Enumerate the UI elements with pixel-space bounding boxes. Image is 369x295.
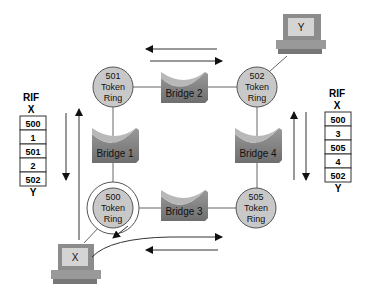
bridge-label: Bridge 3 — [165, 206, 203, 217]
rif-destination: Y — [30, 187, 37, 198]
rif-cell: 500 — [25, 119, 40, 129]
ring-number: 502 — [249, 71, 264, 81]
rif-title: RIF — [23, 92, 39, 103]
ring-number: 500 — [105, 192, 120, 202]
rif-table-left: RIF X 500 1 501 2 502 Y — [20, 92, 46, 198]
rif-cell: 1 — [30, 133, 35, 143]
host-y-computer-icon[interactable]: Y — [276, 14, 326, 54]
ring-label: Ring — [104, 214, 123, 224]
ring-number: 505 — [248, 192, 263, 202]
ring-label: Token — [244, 203, 268, 213]
host-label: Y — [298, 22, 305, 33]
ring-number: 501 — [105, 71, 120, 81]
token-ring-502[interactable]: 502 Token Ring — [237, 67, 277, 107]
rif-cell: 505 — [330, 143, 345, 153]
rif-cell: 500 — [330, 115, 345, 125]
host-x-computer-icon[interactable]: X — [51, 244, 101, 284]
rif-source: X — [28, 104, 35, 115]
token-ring-505[interactable]: 505 Token Ring — [236, 188, 276, 228]
token-ring-500[interactable]: 500 Token Ring — [87, 182, 139, 234]
bridge-label: Bridge 4 — [239, 148, 277, 159]
rif-cell: 502 — [330, 171, 345, 181]
rif-cell: 3 — [335, 129, 340, 139]
bridge-label: Bridge 1 — [96, 148, 134, 159]
ring-label: Ring — [247, 214, 266, 224]
rif-destination: Y — [335, 183, 342, 194]
ring-label: Token — [101, 82, 125, 92]
host-label: X — [72, 252, 79, 263]
bridge-4[interactable]: Bridge 4 — [235, 128, 282, 163]
bridge-label: Bridge 2 — [165, 88, 203, 99]
bridge-3[interactable]: Bridge 3 — [161, 190, 208, 221]
ring-label: Ring — [104, 93, 123, 103]
bridge-2[interactable]: Bridge 2 — [161, 72, 208, 103]
rif-title: RIF — [329, 88, 345, 99]
ring-label: Ring — [248, 93, 267, 103]
rif-source: X — [334, 100, 341, 111]
network-diagram: Bridge 2 Bridge 1 Bridge 4 Bridge 3 501 … — [0, 0, 369, 295]
token-ring-501[interactable]: 501 Token Ring — [93, 67, 133, 107]
rif-cell: 501 — [25, 147, 40, 157]
rif-table-right: RIF X 500 3 505 4 502 Y — [325, 88, 351, 194]
ring-label: Token — [245, 82, 269, 92]
bridge-1[interactable]: Bridge 1 — [92, 128, 139, 163]
rif-cell: 502 — [25, 175, 40, 185]
rif-cell: 2 — [30, 161, 35, 171]
rif-cell: 4 — [335, 157, 340, 167]
ring-label: Token — [101, 203, 125, 213]
